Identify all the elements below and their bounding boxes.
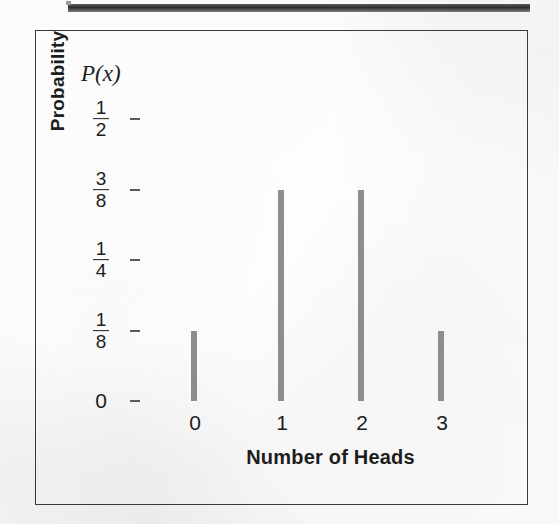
fraction: 38: [93, 169, 110, 211]
y-tick-label-2: 14: [79, 239, 123, 281]
x-axis-title: Number of Heads: [138, 446, 523, 469]
y-series-label: P(x): [81, 61, 121, 87]
y-tick-1: 38: [130, 189, 140, 191]
y-tick-0: 12: [130, 118, 140, 120]
y-axis-title: Probability: [47, 0, 69, 181]
x-tick-label-3: 3: [422, 411, 462, 435]
bar-2: [358, 190, 364, 402]
y-tick-2: 14: [130, 259, 140, 261]
fraction-numerator: 1: [93, 98, 110, 119]
fraction-numerator: 1: [93, 310, 110, 331]
bar-1: [278, 190, 284, 402]
fraction: 12: [93, 98, 110, 140]
plot-area: P(x) 123814180 0123 Probability Number o…: [36, 31, 527, 504]
y-tick-3: 18: [130, 330, 140, 332]
page-bleed-bar: [68, 4, 530, 12]
bar-3: [438, 331, 444, 402]
fraction: 18: [93, 310, 110, 352]
y-axis-line: [36, 31, 38, 315]
bar-0: [191, 331, 197, 402]
y-tick-label-1: 38: [79, 169, 123, 211]
figure-page: P(x) 123814180 0123 Probability Number o…: [0, 0, 559, 524]
fraction-denominator: 8: [93, 190, 110, 210]
y-tick-label-0: 12: [79, 98, 123, 140]
figure-frame: P(x) 123814180 0123 Probability Number o…: [35, 30, 528, 505]
fraction-numerator: 1: [93, 239, 110, 260]
fraction-denominator: 8: [93, 331, 110, 351]
fraction-denominator: 4: [93, 261, 110, 281]
fraction-numerator: 3: [93, 169, 110, 190]
x-tick-label-1: 1: [262, 411, 302, 435]
x-tick-label-0: 0: [175, 411, 215, 435]
fraction-denominator: 2: [93, 120, 110, 140]
fraction: 14: [93, 239, 110, 281]
x-tick-label-2: 2: [342, 411, 382, 435]
y-tick-4: 0: [130, 400, 140, 402]
y-tick-label-3: 18: [79, 310, 123, 352]
y-tick-label-4: 0: [79, 390, 123, 411]
